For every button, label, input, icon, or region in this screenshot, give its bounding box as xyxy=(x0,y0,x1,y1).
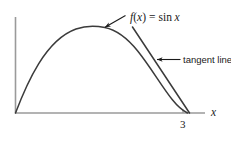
x-tick-label-3: 3 xyxy=(180,118,186,130)
function-label-sin: sin xyxy=(159,11,173,23)
sine-tangent-figure: f(x)=sinx tangent line x 3 xyxy=(0,0,231,143)
function-label-argument: x xyxy=(173,11,180,23)
function-label-paren-close: ) xyxy=(142,11,146,24)
tangent-line-label: tangent line xyxy=(183,54,231,65)
function-label-equals: = xyxy=(149,11,156,23)
figure-container: f(x)=sinx tangent line x 3 xyxy=(0,0,231,143)
x-axis-label: x xyxy=(210,106,217,118)
